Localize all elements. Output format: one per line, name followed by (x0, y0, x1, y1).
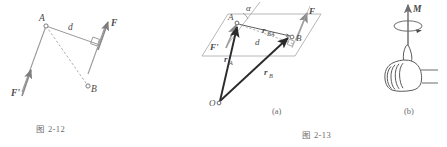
line-of-action-b (88, 24, 106, 74)
label-vector-r-ba: r BA (262, 25, 275, 37)
point-a-marker (235, 21, 239, 25)
point-b-marker (290, 35, 294, 39)
label-point-o: O (209, 98, 216, 108)
label-vector-r-b-base: r (264, 67, 268, 77)
label-vector-r-ba-sub: BA (267, 30, 275, 37)
label-moment-m: M (412, 4, 422, 14)
label-angle-alpha: α (246, 3, 251, 13)
force-f-prime-arrow (22, 70, 31, 96)
label-point-a: A (227, 12, 234, 22)
figure-2-12: A B d F F' (0, 0, 150, 120)
figure-2-13-panel-b: M (370, 0, 447, 115)
label-distance-d: d (68, 22, 73, 32)
label-point-b: B (91, 84, 97, 94)
label-force-f-prime: F' (10, 88, 20, 98)
label-vector-r-ba-base: r (262, 25, 266, 35)
segment-ab (46, 26, 88, 86)
label-force-f: F (110, 18, 118, 28)
label-point-b: B (296, 33, 302, 43)
sublabel-panel-b: (b) (404, 106, 414, 116)
label-vector-r-a-sub: A (228, 59, 233, 66)
force-f-arrow (98, 22, 108, 50)
vector-r-b-arrow (220, 38, 288, 101)
figure-page: A B d F F' 图 2-12 (0, 0, 447, 147)
line-of-action-a (22, 26, 46, 92)
caption-figure-2-13: 图 2-13 (302, 128, 331, 140)
rotation-arrowhead-icon (416, 30, 422, 34)
label-distance-d: d (255, 37, 260, 47)
point-o-marker (217, 101, 221, 105)
figure-2-13-panel-a: A B O α d r BA r A r B F F' (180, 0, 340, 120)
label-vector-r-a-base: r (224, 54, 228, 64)
label-force-f: F (308, 6, 315, 16)
caption-figure-2-12: 图 2-12 (36, 122, 65, 134)
point-a-marker (44, 24, 48, 28)
sublabel-panel-a: (a) (272, 106, 281, 116)
point-b-marker (86, 84, 90, 88)
right-hand-thumbs-up-icon (385, 45, 438, 91)
label-force-f-prime: F' (209, 42, 219, 52)
label-vector-r-b: r B (264, 67, 273, 79)
label-vector-r-b-sub: B (269, 72, 273, 79)
label-point-a: A (38, 13, 45, 23)
